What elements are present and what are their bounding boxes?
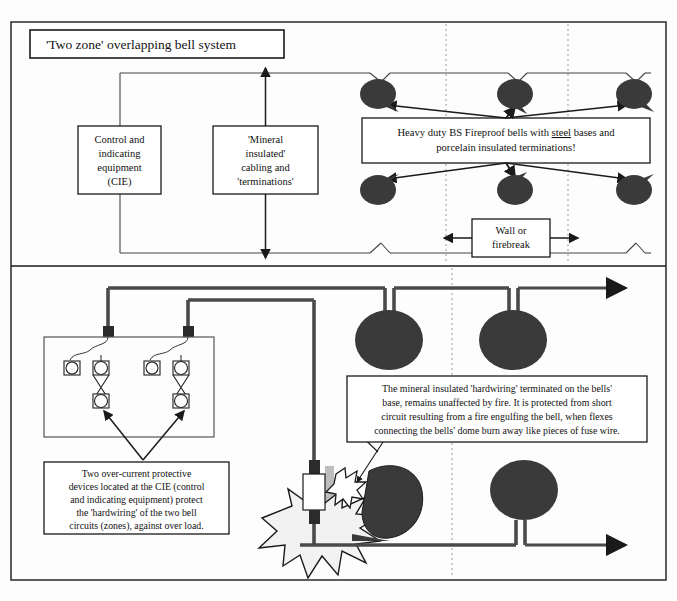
cie-line-2: indicating (99, 148, 142, 159)
cable-terminal-upper (309, 460, 320, 474)
wall-line-1: Wall or (496, 225, 527, 236)
cie-note-line-2: devices located at the CIE (control (69, 481, 205, 493)
cabling-line-4: 'terminations' (237, 176, 293, 187)
cie-note-line-3: and indicating equipment) protect (70, 494, 203, 506)
bells-note-part-a: Heavy duty BS Fireproof bells with (397, 127, 551, 138)
wall-line-2: firebreak (492, 239, 531, 250)
hardwiring-note-line-3: circuit resulting from a fire engulfing … (381, 411, 613, 422)
cie-note-line-5: circuits (zones), against over load. (69, 520, 203, 532)
hardwiring-note-line-2: base, remains unaffected by fire. It is … (382, 397, 612, 408)
lower-bell-3 (490, 460, 558, 520)
page-title: 'Two zone' overlapping bell system (46, 37, 236, 52)
cie-line-1: Control and (95, 134, 146, 145)
lower-bell-1 (355, 310, 423, 370)
hardwiring-note-line-1: The mineral insulated 'hardwiring' termi… (382, 383, 612, 394)
cie-note-line-1: Two over-current protective (82, 468, 192, 479)
terminal-left-1 (103, 326, 114, 337)
lower-bell-2 (479, 310, 547, 370)
cie-line-3: equipment (97, 162, 141, 173)
cie-note-line-4: the 'hardwiring' of the two bell (76, 507, 197, 518)
cabling-line-2: insulated' (246, 148, 286, 159)
diagram-svg: 'Two zone' overlapping bell system Contr… (0, 0, 677, 601)
bells-note-line-1: Heavy duty BS Fireproof bells with steel… (397, 127, 615, 138)
bells-note-box (362, 118, 650, 163)
hardwiring-note-line-4: connecting the bells' dome burn away lik… (374, 425, 620, 436)
bells-note-line-2: porcelain insulated terminations! (436, 142, 575, 153)
cie-line-4: (CIE) (108, 176, 132, 188)
bells-note-part-b: bases and (571, 127, 615, 138)
bells-note-underline: steel (552, 127, 571, 138)
figure-root: 'Two zone' overlapping bell system Contr… (0, 0, 677, 601)
cabling-line-3: cabling and (241, 162, 290, 173)
bell-base-terminal-box (303, 474, 325, 510)
terminal-left-2 (183, 326, 194, 337)
cabling-line-1: 'Mineral (248, 134, 283, 145)
cable-terminal-lower (309, 510, 320, 524)
